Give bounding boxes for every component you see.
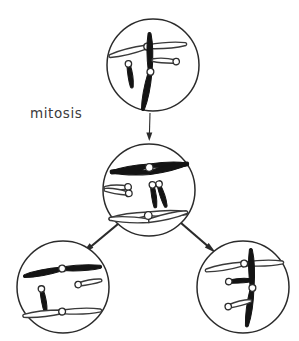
centromere: [58, 308, 65, 315]
cell-membrane: [17, 241, 109, 333]
centromere: [58, 265, 65, 272]
arrow-parent-to-metaphase: [146, 113, 152, 141]
centromere: [145, 163, 153, 171]
centromere: [225, 303, 232, 310]
mitosis-label: mitosis: [30, 105, 82, 121]
centromere: [125, 190, 132, 197]
centromere: [249, 284, 256, 291]
centromere: [38, 286, 45, 293]
centromere: [125, 183, 132, 190]
parent-cell: [107, 19, 199, 112]
metaphase-cell: [103, 144, 195, 236]
centromere: [75, 281, 82, 288]
daughter-cell-left: [17, 241, 109, 333]
centromere: [155, 181, 162, 188]
centromere: [149, 181, 156, 188]
mitosis-diagram: mitosis: [0, 0, 299, 341]
centromere: [173, 58, 180, 65]
centromere: [240, 260, 247, 267]
centromere: [125, 60, 132, 67]
centromere: [147, 68, 154, 75]
daughter-cell-right: [197, 241, 289, 333]
cell-membrane: [197, 241, 289, 333]
mitosis-illustration: [0, 0, 299, 341]
centromere: [225, 278, 232, 285]
arrow-metaphase-to-right-daughter: [181, 223, 216, 253]
centromere: [144, 211, 152, 219]
